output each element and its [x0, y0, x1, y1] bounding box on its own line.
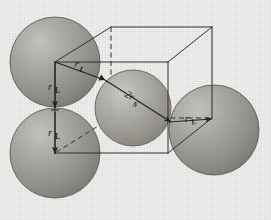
cube-edge-depth-top-right: [168, 27, 212, 62]
label-rL-diagonal-lower-sub: L: [191, 117, 197, 126]
large-sphere-right: [169, 85, 259, 175]
label-rL-vertical-upper-sub: L: [55, 86, 60, 95]
crystal-unit-cell-figure: r L r L r L 2r S r L: [0, 0, 271, 220]
unit-cell-diagram: r L r L r L 2r S r L: [0, 0, 271, 220]
label-rL-vertical-lower-sub: L: [55, 132, 60, 141]
